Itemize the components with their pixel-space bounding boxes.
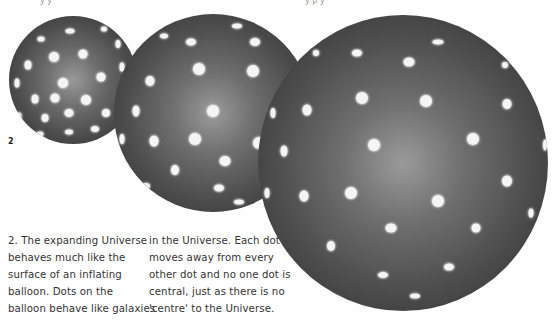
galaxy-dot [132,106,139,117]
caption-line: surface of an inflating [8,266,138,283]
galaxy-dot [300,190,309,201]
galaxy-dot [149,135,158,146]
caption-line: in the Universe. Each dot [149,232,279,249]
galaxy-dot [41,114,48,122]
galaxy-dot [51,93,60,102]
galaxy-dot [356,92,368,104]
galaxy-dot [432,195,444,207]
galaxy-dot [193,63,205,75]
galaxy-dot [101,26,107,31]
galaxy-dot [420,95,432,107]
galaxy-dot [79,50,88,59]
galaxy-dot [295,45,301,51]
galaxy-dot [303,104,312,115]
galaxy-dot [160,33,168,38]
galaxy-dot [281,146,288,157]
galaxy-dot [270,108,275,118]
galaxy-dot [543,140,547,151]
galaxy-dot [503,99,512,109]
caption-line: other dot and no one dot is [149,266,279,283]
galaxy-dot [403,58,414,67]
galaxy-dot [528,209,533,218]
galaxy-dot [234,200,244,205]
top-clipped-text-left: y y [40,0,52,5]
galaxy-dot [292,270,300,275]
galaxy-dot [81,95,91,105]
galaxy-dot [214,185,224,192]
galaxy-dot [171,165,179,175]
caption-line: moves away from every [149,249,279,266]
galaxy-dot [471,224,480,233]
galaxy-dot [145,76,154,86]
galaxy-dot [58,78,68,88]
galaxy-dot [36,131,43,136]
galaxy-dot [186,38,196,45]
galaxy-dot [386,224,397,233]
galaxy-dot [38,37,45,42]
galaxy-dot [17,112,22,119]
caption-right-column: in the Universe. Each dot moves away fro… [149,232,279,317]
galaxy-dot [352,50,362,57]
caption-line: balloon behave like galaxies [8,300,138,317]
galaxy-dot [345,187,357,199]
galaxy-dot [14,78,19,87]
galaxy-dot [368,139,380,151]
galaxy-dot [115,40,120,48]
galaxy-dot [327,241,335,251]
galaxy-dot [313,50,319,56]
galaxy-dot [247,65,259,77]
galaxy-dot [189,133,201,145]
galaxy-dot [49,52,59,62]
caption-line: balloon. Dots on the [8,283,138,300]
caption-line: 2. The expanding Universe [8,232,138,249]
galaxy-dot [207,105,219,117]
galaxy-dot [432,39,443,44]
galaxy-dot [444,263,454,270]
galaxy-dot [102,109,110,117]
galaxy-dot [91,126,99,132]
top-clipped-text-right: y p y [305,0,325,5]
galaxy-dot [119,134,124,144]
galaxy-dot [219,156,230,166]
galaxy-dot [467,133,479,145]
figure-number: 2 [8,137,14,146]
galaxy-dot [378,272,388,278]
galaxy-dot [250,38,260,46]
galaxy-dot [66,29,75,34]
galaxy-dot [410,294,420,299]
caption-line: 'centre' to the Universe. [149,300,279,317]
large-balloon [258,15,548,311]
galaxy-dot [142,183,150,189]
galaxy-dot [502,62,508,68]
galaxy-dot [31,95,38,104]
galaxy-dot [65,130,73,135]
caption-left-column: 2. The expanding Universe behaves much l… [8,232,138,317]
caption-line: central, just as there is no [149,283,279,300]
galaxy-dot [232,23,242,28]
galaxy-dot [502,175,512,186]
caption-line: behaves much like the [8,249,138,266]
galaxy-dot [65,109,74,117]
galaxy-dot [264,188,269,198]
galaxy-dot [25,60,32,69]
galaxy-dot [97,73,106,82]
